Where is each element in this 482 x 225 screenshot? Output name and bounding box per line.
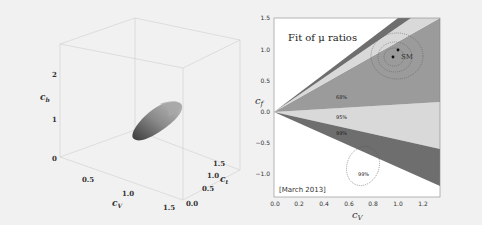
best-fit-point — [392, 56, 395, 59]
x-tick: 0.2 — [294, 200, 304, 207]
region-label-99: 99% — [336, 130, 347, 136]
region-label-95: 95% — [336, 114, 347, 120]
x-tick: 1.0 — [122, 189, 134, 198]
plot-2d: SM 68% 95% 99% 99% Fit of μ ratios [Marc… — [255, 14, 440, 222]
y-tick: 0.0 — [186, 199, 198, 208]
date-annotation: [March 2013] — [279, 186, 326, 194]
sm-label: SM — [401, 53, 413, 61]
y-axis-label: cf — [255, 95, 265, 108]
y-tick: 1.0 — [207, 171, 219, 180]
z-tick: 1 — [52, 115, 57, 124]
x-tick: 1.0 — [393, 200, 403, 207]
sm-point — [397, 49, 400, 52]
plot-3d: 2 1 0 cb 0.5 1.0 1.5 cV 1.5 1.0 0.5 0.0 … — [40, 18, 240, 212]
y-axis-label: ct — [220, 174, 228, 185]
x-axis-label: cV — [112, 198, 123, 209]
region-label-68: 68% — [336, 94, 347, 100]
z-axis-label: cb — [40, 92, 50, 103]
x-tick: 0.0 — [270, 200, 280, 207]
x-tick: 0.6 — [344, 200, 354, 207]
x-tick: 1.2 — [418, 200, 428, 207]
y-tick: 0.5 — [260, 77, 270, 84]
x-tick: 0.8 — [368, 200, 378, 207]
y-tick: 0.0 — [260, 108, 270, 115]
y-tick: 1.0 — [260, 46, 270, 53]
y-tick: −0.5 — [255, 139, 270, 146]
z-tick: 0 — [52, 154, 57, 163]
x-axis-label: cV — [352, 209, 364, 222]
region-label-99-ellipse: 99% — [358, 171, 369, 177]
chart-title: Fit of μ ratios — [288, 32, 357, 43]
x-tick: 1.5 — [163, 203, 175, 212]
x-tick: 0.5 — [82, 175, 94, 184]
y-tick: −1.0 — [255, 170, 270, 177]
y-tick: 1.5 — [213, 159, 225, 168]
confidence-ellipsoid — [132, 101, 182, 140]
figure: 2 1 0 cb 0.5 1.0 1.5 cV 1.5 1.0 0.5 0.0 … — [0, 0, 482, 225]
y-tick: 0.5 — [202, 184, 214, 193]
z-tick: 2 — [52, 70, 57, 79]
y-tick: 1.5 — [260, 14, 270, 21]
x-tick: 0.4 — [319, 200, 329, 207]
